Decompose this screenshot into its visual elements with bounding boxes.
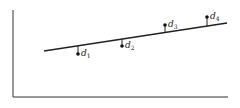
data-point-d2: d2 bbox=[120, 39, 135, 51]
fit-line bbox=[44, 23, 227, 51]
point-label: d4 bbox=[210, 11, 220, 22]
point-dot bbox=[163, 23, 167, 27]
point-label: d3 bbox=[168, 19, 178, 30]
point-label: d1 bbox=[81, 48, 91, 59]
point-label: d2 bbox=[125, 40, 135, 51]
point-dot bbox=[205, 15, 209, 19]
point-dot bbox=[76, 52, 80, 56]
residual-diagram: d1d2d3d4 bbox=[0, 0, 240, 108]
point-dot bbox=[120, 44, 124, 48]
data-point-d1: d1 bbox=[76, 46, 90, 59]
